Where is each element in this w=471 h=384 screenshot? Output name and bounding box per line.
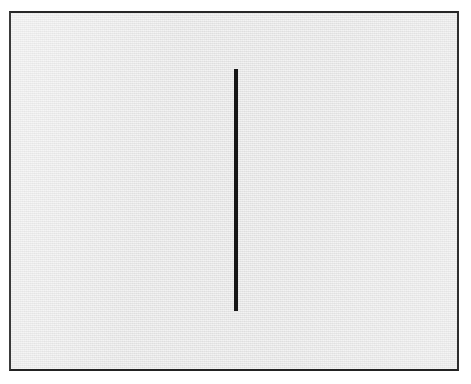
figure-root: Single vertical black line on a light gr… [0,0,471,384]
vertical-line-stroke [234,69,238,311]
figure-panel [9,11,459,371]
